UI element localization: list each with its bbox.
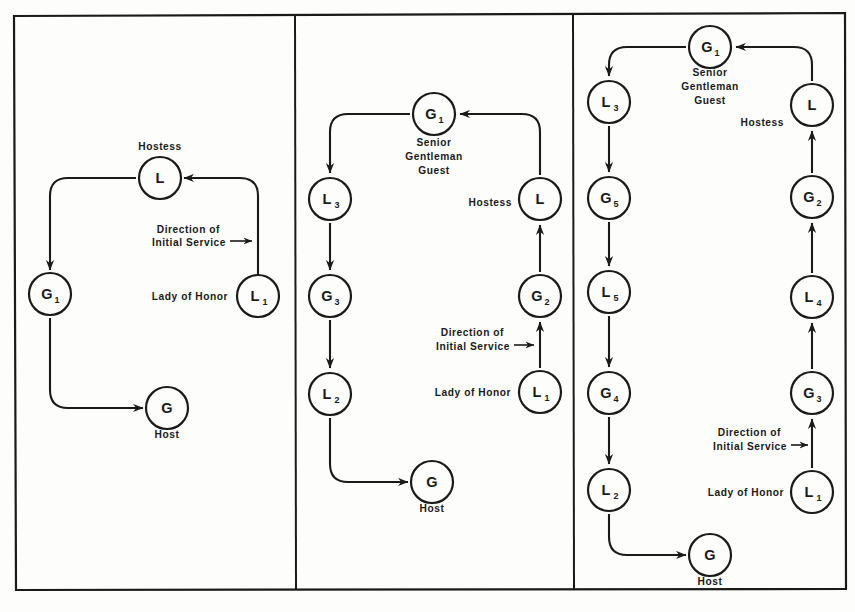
node-label: G (161, 400, 173, 416)
node-subscript: 1 (438, 115, 443, 125)
panel-divider-left (295, 15, 296, 589)
node-subscript: 1 (714, 48, 719, 58)
caption-panel-one-0: Hostess (138, 141, 182, 152)
node-label: L (804, 484, 813, 500)
node-p3-G[interactable]: G (689, 534, 731, 576)
node-subscript: 2 (544, 297, 549, 307)
node-label: G (600, 190, 612, 206)
node-p2-G3[interactable]: G3 (309, 275, 351, 317)
flow-p2-L-to-G1 (460, 114, 540, 175)
node-label: L (535, 191, 544, 207)
node-subscript: 2 (613, 491, 618, 501)
node-p1-G1[interactable]: G1 (29, 273, 71, 315)
node-label: L (322, 191, 331, 207)
caption-panel-one-3: Direction of (157, 224, 220, 235)
node-label: L (532, 384, 541, 400)
panel-divider-right (573, 14, 574, 589)
node-label: G (321, 288, 333, 304)
flow-p3-L2-to-G (609, 514, 686, 555)
node-label: G (704, 547, 716, 563)
node-p3-L2[interactable]: L2 (588, 469, 630, 511)
node-subscript: 1 (262, 297, 267, 307)
caption-panel-two-7: Host (420, 503, 445, 514)
seating-service-diagram: LG1L1GG1L3LG3G2L2L1GG1L3LG5G2L5L4G4G3L2L… (0, 0, 855, 612)
node-label: L (807, 97, 816, 113)
node-subscript: 3 (816, 394, 821, 404)
node-label: L (322, 386, 331, 402)
caption-panel-one-1: Host (155, 429, 180, 440)
caption-panel-two-1: Gentleman (405, 151, 463, 162)
caption-panel-two-2: Guest (418, 165, 450, 176)
node-p3-L1[interactable]: L1 (791, 471, 833, 513)
node-p2-L3[interactable]: L3 (309, 178, 351, 220)
node-p3-L5[interactable]: L5 (588, 271, 630, 313)
node-subscript: 2 (334, 395, 339, 405)
caption-panel-two-0: Senior (416, 137, 451, 148)
caption-panel-two-5: Initial Service (436, 341, 510, 352)
node-label: G (600, 385, 612, 401)
node-subscript: 1 (54, 295, 59, 305)
caption-panel-three-5: Initial Service (713, 441, 787, 452)
caption-panel-three-3: Hostess (741, 117, 785, 128)
node-subscript: 3 (334, 200, 339, 210)
node-p1-L1[interactable]: L1 (237, 275, 279, 317)
caption-panel-three-1: Gentleman (681, 81, 739, 92)
flow-p3-L-to-G1 (736, 47, 812, 81)
caption-panel-three-4: Direction of (718, 427, 781, 438)
caption-panel-two-4: Direction of (441, 327, 504, 338)
node-subscript: 5 (613, 293, 618, 303)
node-p3-G3[interactable]: G3 (791, 372, 833, 414)
node-label: G (425, 106, 437, 122)
node-p1-G[interactable]: G (146, 387, 188, 429)
node-p2-G1[interactable]: G1 (413, 93, 455, 135)
node-label: L (250, 288, 259, 304)
node-label: L (601, 94, 610, 110)
node-p2-L[interactable]: L (519, 178, 561, 220)
node-subscript: 5 (613, 199, 618, 209)
caption-panel-two-6: Lady of Honor (435, 387, 511, 398)
flow-p1-L-to-G1 (50, 178, 136, 270)
caption-panel-three-0: Senior (692, 67, 727, 78)
flow-p2-G1-to-L3 (330, 114, 410, 173)
node-p2-L2[interactable]: L2 (309, 373, 351, 415)
node-label: G (426, 474, 438, 490)
flow-p2-L2-to-G (330, 418, 408, 482)
node-label: L (804, 289, 813, 305)
node-subscript: 4 (816, 298, 821, 308)
node-subscript: 1 (544, 393, 549, 403)
caption-panel-three-6: Lady of Honor (708, 487, 784, 498)
caption-panel-one-2: Lady of Honor (152, 291, 228, 302)
caption-panel-two-3: Hostess (469, 197, 513, 208)
caption-panel-three-7: Host (698, 576, 723, 587)
node-label: L (601, 482, 610, 498)
node-p3-L4[interactable]: L4 (791, 276, 833, 318)
flow-p1-G1-to-G (50, 318, 143, 408)
node-subscript: 4 (613, 394, 618, 404)
node-p3-G2[interactable]: G2 (791, 176, 833, 218)
node-p3-G5[interactable]: G5 (588, 177, 630, 219)
node-p2-G[interactable]: G (411, 461, 453, 503)
node-subscript: 1 (816, 493, 821, 503)
caption-panel-three-2: Guest (694, 95, 726, 106)
node-subscript: 3 (613, 103, 618, 113)
node-label: G (41, 286, 53, 302)
node-p3-G4[interactable]: G4 (588, 372, 630, 414)
node-p3-G1[interactable]: G1 (689, 26, 731, 68)
node-p2-G2[interactable]: G2 (519, 275, 561, 317)
captions-layer: HostessHostLady of HonorDirection ofInit… (138, 67, 787, 587)
node-subscript: 3 (334, 297, 339, 307)
node-p2-L1[interactable]: L1 (519, 371, 561, 413)
node-label: G (531, 288, 543, 304)
flow-p3-G1-to-L3 (609, 47, 686, 76)
node-p1-L[interactable]: L (139, 157, 181, 199)
figure-canvas: LG1L1GG1L3LG3G2L2L1GG1L3LG5G2L5L4G4G3L2L… (0, 0, 855, 612)
caption-panel-one-4: Initial Service (152, 237, 226, 248)
node-label: L (155, 170, 164, 186)
node-label: G (803, 189, 815, 205)
node-label: G (701, 39, 713, 55)
node-subscript: 2 (816, 198, 821, 208)
node-p3-L[interactable]: L (791, 84, 833, 126)
node-label: G (803, 385, 815, 401)
node-p3-L3[interactable]: L3 (588, 81, 630, 123)
node-label: L (601, 284, 610, 300)
